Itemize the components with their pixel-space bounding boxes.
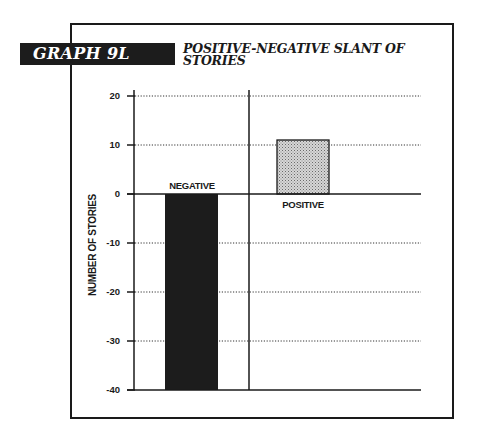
- ytick-20: 20: [92, 90, 120, 101]
- plot-area: [0, 0, 481, 441]
- ytick-neg40: -40: [92, 384, 120, 395]
- bar-label-negative: NEGATIVE: [169, 180, 214, 191]
- ytick-10: 10: [92, 139, 120, 150]
- bar-negative: [165, 194, 218, 390]
- y-axis-label: NUMBER OF STORIES: [87, 194, 98, 296]
- ytick-neg30: -30: [92, 335, 120, 346]
- bar-label-positive: POSITIVE: [282, 199, 323, 210]
- bar-positive: [277, 140, 329, 194]
